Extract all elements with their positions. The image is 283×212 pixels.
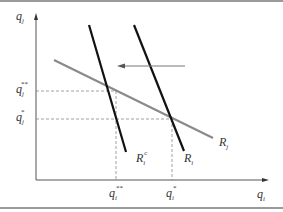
x-axis-arrowhead (262, 178, 269, 182)
shift-arrow-head (117, 64, 125, 69)
y-axis-label: qj (16, 9, 24, 25)
qj-star-label: qj* (16, 108, 25, 126)
curve-Ric (89, 25, 126, 152)
qi-star-label: qi* (166, 184, 177, 202)
reaction-function-diagram: qj qi qj** qj* qi** qi* Rj Ric Ri (0, 0, 283, 212)
curve-Rj (54, 60, 213, 138)
y-axis-arrowhead (34, 13, 38, 20)
curve-label-Rj: Rj (218, 135, 228, 151)
curve-label-Ri: Ri (183, 151, 193, 167)
curve-label-Ric: Ric (135, 149, 147, 167)
qj-double-star-label: qj** (16, 80, 28, 98)
x-axis-label: qi (257, 187, 265, 203)
qi-double-star-label: qi** (109, 184, 123, 202)
curve-Ri (134, 25, 184, 151)
